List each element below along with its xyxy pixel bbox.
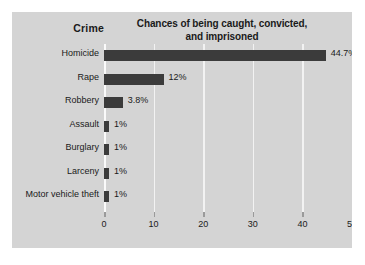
category-label: Larceny xyxy=(67,166,99,176)
x-tick xyxy=(203,212,205,217)
chart-title-line2: and imprisoned xyxy=(185,31,258,42)
bar xyxy=(104,97,123,108)
bar xyxy=(104,168,109,179)
x-tick-label: 40 xyxy=(297,219,307,229)
category-label: Motor vehicle theft xyxy=(25,189,99,199)
chart-row: Burglary1% xyxy=(104,138,352,161)
bar xyxy=(104,74,164,85)
category-label: Burglary xyxy=(65,142,99,152)
bar-value-label: 1% xyxy=(114,189,127,199)
x-tick-label: 20 xyxy=(198,219,208,229)
x-tick-label: 0 xyxy=(101,219,106,229)
bar xyxy=(104,191,109,202)
bar-value-label: 1% xyxy=(114,142,127,152)
bar xyxy=(104,144,109,155)
chart-row: Motor vehicle theft1% xyxy=(104,185,352,208)
bar-value-label: 1% xyxy=(114,166,127,176)
bar xyxy=(104,50,326,61)
x-axis: 01020304050 xyxy=(104,212,352,238)
category-label: Assault xyxy=(69,119,99,129)
chart-row: Assault1% xyxy=(104,115,352,138)
chart-title-line1: Chances of being caught, convicted, xyxy=(137,18,307,29)
x-tick-label: 50 xyxy=(347,219,352,229)
x-tick-label: 10 xyxy=(149,219,159,229)
bar-value-label: 1% xyxy=(114,119,127,129)
chart-title: Chances of being caught, convicted, and … xyxy=(108,18,336,43)
plot-area: Homicide44.7%Rape12%Robbery3.8%Assault1%… xyxy=(104,44,352,212)
x-tick xyxy=(154,212,156,217)
category-label: Rape xyxy=(77,72,99,82)
bar-value-label: 44.7% xyxy=(331,48,352,58)
chart-panel: Crime Chances of being caught, convicted… xyxy=(12,12,352,248)
chart-row: Rape12% xyxy=(104,68,352,91)
x-tick xyxy=(253,212,255,217)
category-label: Robbery xyxy=(65,95,99,105)
x-tick xyxy=(104,212,106,217)
x-tick-label: 30 xyxy=(248,219,258,229)
bar-value-label: 12% xyxy=(169,72,187,82)
category-label: Homicide xyxy=(61,48,99,58)
chart-row: Larceny1% xyxy=(104,162,352,185)
x-tick xyxy=(302,212,304,217)
chart-row: Robbery3.8% xyxy=(104,91,352,114)
bar-value-label: 3.8% xyxy=(128,95,149,105)
bar xyxy=(104,121,109,132)
column-header-crime: Crime xyxy=(12,22,104,34)
chart-row: Homicide44.7% xyxy=(104,44,352,67)
